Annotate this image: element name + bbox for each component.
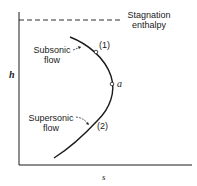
point-2-label: (2): [97, 121, 108, 131]
stagnation-enthalpy-label: Stagnation enthalpy: [124, 10, 174, 30]
point-a-marker: [110, 82, 114, 86]
supersonic-label-line1: Supersonic: [25, 113, 77, 123]
supersonic-label-line2: flow: [25, 123, 77, 133]
subsonic-label-line2: flow: [30, 55, 74, 65]
stagnation-label-line2: enthalpy: [124, 20, 174, 30]
x-axis-label: s: [102, 172, 106, 182]
stagnation-label-line1: Stagnation: [124, 10, 174, 20]
subsonic-flow-label: Subsonic flow: [30, 45, 74, 65]
subsonic-label-line1: Subsonic: [30, 45, 74, 55]
point-1-marker: [94, 50, 98, 54]
supersonic-leader-arrow: [76, 117, 88, 124]
point-a-label: a: [117, 79, 122, 89]
point-1-label: (1): [99, 40, 110, 50]
supersonic-flow-label: Supersonic flow: [25, 113, 77, 133]
y-axis-label: h: [9, 70, 15, 80]
